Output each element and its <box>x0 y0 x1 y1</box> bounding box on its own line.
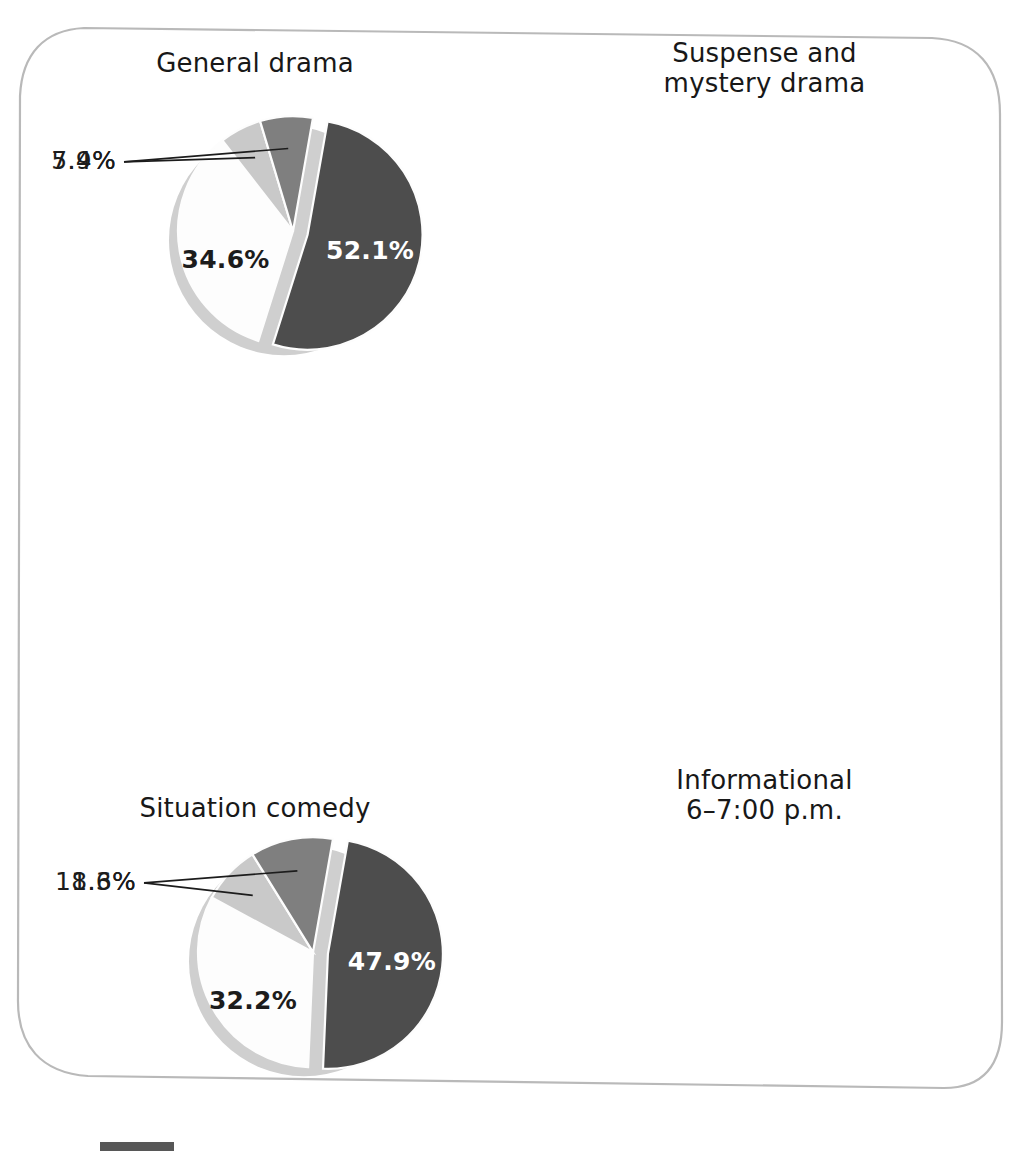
chart-title: Suspense and mystery drama <box>510 38 1019 98</box>
pie-chart-4: Informational 6–7:00 p.m.53.5%40.5%2.1%3… <box>510 375 1019 715</box>
pie-chart-2: Suspense and mystery drama55.9%35.6%0.3%… <box>510 0 1019 375</box>
pie-chart-grid: General drama52.1%34.6%5.9%7.4%Suspense … <box>0 0 1019 1090</box>
pie-chart-5: Feature films53.2%32.8%6.6%7.4% <box>0 715 510 1090</box>
pie-chart-3: Situation comedy47.9%32.2%8.3%11.6% <box>0 375 510 715</box>
pie-chart-6: All regular network programs 7–11:00 p.m… <box>510 715 1019 1090</box>
legend-swatch <box>100 1142 174 1151</box>
legend <box>0 1130 1019 1151</box>
pie-chart-1: General drama52.1%34.6%5.9%7.4% <box>0 0 510 375</box>
slice-value-label: 34.6% <box>181 244 269 273</box>
slice-callout-label: 7.4% <box>51 146 116 175</box>
slice-value-label: 52.1% <box>326 236 414 265</box>
legend-item <box>100 1142 188 1151</box>
